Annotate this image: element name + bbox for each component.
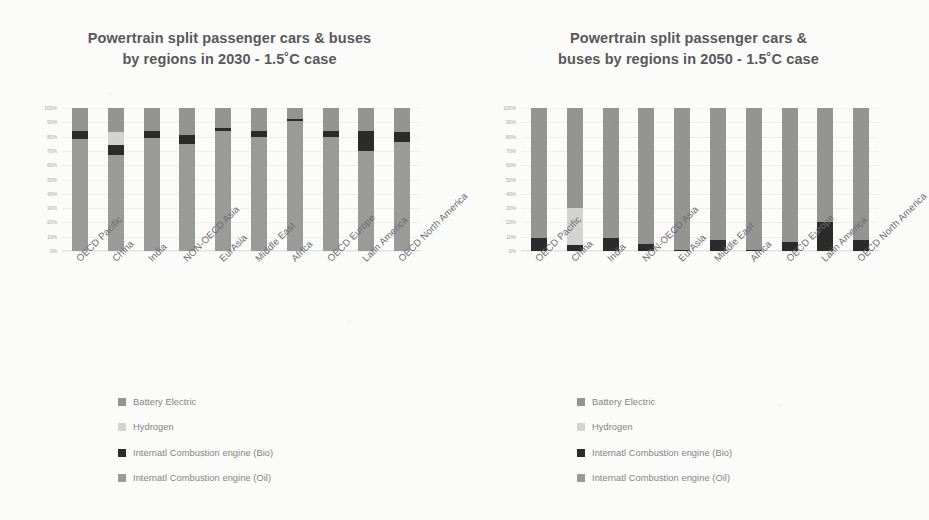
bar-segment — [394, 108, 410, 132]
bar-segment — [108, 108, 124, 132]
legend-swatch-ice_oil — [577, 474, 585, 482]
bar-segment — [287, 108, 303, 119]
y-axis-tick-label: 70% — [47, 148, 57, 154]
bar-segment — [179, 135, 195, 144]
bar-segment — [179, 144, 195, 251]
y-axis-tick-label: 60% — [47, 162, 57, 168]
bar-oecd-europe[interactable] — [323, 108, 339, 251]
bar-segment — [782, 108, 798, 242]
legend-label-ice_bio: Internatl Combustion engine (Bio) — [133, 448, 273, 458]
bar-segment — [72, 131, 88, 140]
chart-title-2030-line1: Powertrain split passenger cars & buses — [20, 28, 439, 49]
y-axis-tick-label: 10% — [47, 234, 57, 240]
legend-item-battery[interactable]: Battery Electric — [118, 389, 418, 415]
x-axis-labels-2030: OECD PacificChinaIndiaNON-OECD AsiaEurAs… — [62, 252, 420, 372]
bar-segment — [251, 108, 267, 131]
y-axis-tick-label: 80% — [506, 134, 516, 140]
bar-segment — [323, 137, 339, 251]
chart-panel-2050: Powertrain split passenger cars & buses … — [459, 0, 918, 520]
legend-swatch-ice_bio — [577, 449, 585, 457]
y-axis-tick-label: 90% — [47, 119, 57, 125]
bar-segment — [251, 137, 267, 251]
legend-item-hydrogen[interactable]: Hydrogen — [577, 415, 877, 441]
legend-label-ice_bio: Internatl Combustion engine (Bio) — [592, 448, 732, 458]
bar-segment — [72, 139, 88, 251]
legend-item-battery[interactable]: Battery Electric — [577, 389, 877, 415]
y-axis-tick-label: 30% — [506, 205, 516, 211]
legend-swatch-battery — [577, 398, 585, 406]
bar-segment — [394, 132, 410, 142]
y-axis-tick-label: 0% — [50, 248, 57, 254]
bar-segment — [108, 132, 124, 145]
bar-india[interactable] — [603, 108, 619, 251]
chart-title-2050-line2: buses by regions in 2050 - 1.5˚C case — [479, 49, 898, 70]
y-axis-tick-label: 0% — [509, 248, 516, 254]
legend-2030: Battery ElectricHydrogenInternatl Combus… — [118, 389, 418, 491]
bar-middle-east[interactable] — [251, 108, 267, 251]
legend-swatch-ice_bio — [118, 449, 126, 457]
y-axis-tick-label: 20% — [47, 219, 57, 225]
chart-panel-2030: Powertrain split passenger cars & buses … — [0, 0, 459, 520]
bar-segment — [638, 108, 654, 244]
bar-segment — [108, 145, 124, 155]
bar-oecd-europe[interactable] — [782, 108, 798, 251]
bar-segment — [358, 151, 374, 251]
bar-segment — [710, 108, 726, 240]
bar-segment — [358, 108, 374, 131]
chart-title-2030-line2: by regions in 2030 - 1.5˚C case — [20, 49, 439, 70]
legend-item-ice_bio[interactable]: Internatl Combustion engine (Bio) — [577, 440, 877, 466]
legend-label-hydrogen: Hydrogen — [592, 422, 633, 432]
legend-label-hydrogen: Hydrogen — [133, 422, 174, 432]
legend-label-ice_oil: Internatl Combustion engine (Oil) — [592, 473, 730, 483]
y-axis-tick-label: 100% — [503, 105, 516, 111]
y-axis-tick-label: 90% — [506, 119, 516, 125]
legend-swatch-hydrogen — [577, 423, 585, 431]
bar-segment — [215, 108, 231, 128]
bar-oecd-pacific[interactable] — [72, 108, 88, 251]
bar-middle-east[interactable] — [710, 108, 726, 251]
bar-non-oecd-asia[interactable] — [179, 108, 195, 251]
bar-segment — [179, 108, 195, 135]
bar-non-oecd-asia[interactable] — [638, 108, 654, 251]
y-axis-tick-label: 40% — [47, 191, 57, 197]
y-axis-tick-label: 40% — [506, 191, 516, 197]
y-axis-tick-label: 20% — [506, 219, 516, 225]
chart-title-2050: Powertrain split passenger cars & buses … — [479, 28, 898, 70]
bar-segment — [567, 108, 583, 208]
legend-2050: Battery ElectricHydrogenInternatl Combus… — [577, 389, 877, 491]
bar-segment — [108, 155, 124, 251]
legend-item-hydrogen[interactable]: Hydrogen — [118, 415, 418, 441]
bar-segment — [817, 108, 833, 222]
legend-item-ice_oil[interactable]: Internatl Combustion engine (Oil) — [118, 466, 418, 492]
bar-segment — [603, 108, 619, 238]
legend-label-ice_oil: Internatl Combustion engine (Oil) — [133, 473, 271, 483]
legend-swatch-battery — [118, 398, 126, 406]
legend-swatch-hydrogen — [118, 423, 126, 431]
y-axis-tick-label: 80% — [47, 134, 57, 140]
y-axis-tick-label: 50% — [47, 177, 57, 183]
bar-segment — [144, 108, 160, 131]
legend-label-battery: Battery Electric — [133, 397, 196, 407]
chart-title-2050-line1: Powertrain split passenger cars & — [479, 28, 898, 49]
legend-item-ice_bio[interactable]: Internatl Combustion engine (Bio) — [118, 440, 418, 466]
legend-item-ice_oil[interactable]: Internatl Combustion engine (Oil) — [577, 466, 877, 492]
y-axis-tick-label: 30% — [47, 205, 57, 211]
y-axis-tick-label: 60% — [506, 162, 516, 168]
y-axis-tick-label: 100% — [44, 105, 57, 111]
bar-segment — [531, 108, 547, 238]
legend-swatch-ice_oil — [118, 474, 126, 482]
y-axis-tick-label: 10% — [506, 234, 516, 240]
x-axis-labels-2050: OECD PacificChinaIndiaNON-OECD AsiaEurAs… — [521, 252, 879, 372]
bar-segment — [144, 138, 160, 251]
bar-segment — [323, 108, 339, 131]
y-axis-tick-label: 70% — [506, 148, 516, 154]
bar-segment — [358, 131, 374, 151]
bar-india[interactable] — [144, 108, 160, 251]
bar-segment — [144, 131, 160, 138]
bar-oecd-pacific[interactable] — [531, 108, 547, 251]
bar-segment — [72, 108, 88, 131]
chart-title-2030: Powertrain split passenger cars & buses … — [20, 28, 439, 70]
y-axis-tick-label: 50% — [506, 177, 516, 183]
legend-label-battery: Battery Electric — [592, 397, 655, 407]
